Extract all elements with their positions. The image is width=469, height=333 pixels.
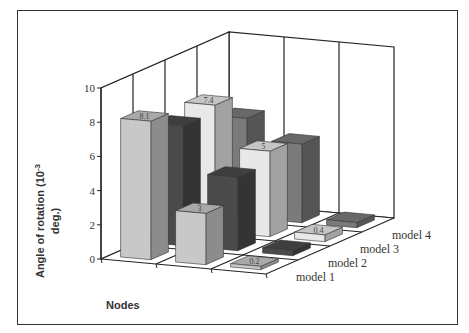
legend-label-2: model 2 — [328, 256, 367, 270]
bar-side-face — [206, 206, 224, 265]
data-label: 0.2 — [250, 257, 260, 266]
bar-side-face — [302, 136, 320, 222]
y-tick-label: 6 — [90, 150, 96, 162]
data-label: 5 — [262, 142, 266, 151]
y-axis-label: Angle of rotation (10-3 deg.) — [24, 111, 68, 331]
data-label: 8.1 — [140, 112, 150, 121]
y-axis-label-line2: deg.) — [48, 208, 60, 234]
data-label: 7.4 — [204, 96, 214, 105]
data-label: 3 — [198, 204, 202, 213]
chart-frame: 02468107.450.48.130.2model 1model 2model… — [17, 10, 458, 325]
x-axis-label: Nodes — [106, 299, 140, 311]
legend-label-3: model 3 — [360, 242, 399, 256]
bar-side-face — [151, 114, 169, 260]
legend-label-1: model 1 — [296, 270, 335, 284]
chart-svg: 02468107.450.48.130.2model 1model 2model… — [18, 11, 459, 326]
bar-front-face — [121, 119, 151, 260]
bar — [121, 111, 169, 260]
y-tick-label: 0 — [90, 253, 96, 265]
y-axis-label-sup: -3 — [33, 164, 42, 171]
bar-side-face — [238, 170, 256, 251]
y-tick-label: 4 — [90, 185, 96, 197]
y-tick-label: 2 — [90, 219, 96, 231]
legend-label-4: model 4 — [392, 228, 431, 242]
bar-side-face — [270, 144, 288, 237]
y-axis-label-line1: Angle of rotation (10 — [34, 171, 46, 278]
y-tick-label: 8 — [90, 116, 96, 128]
bar-front-face — [176, 211, 206, 265]
y-tick-label: 10 — [84, 82, 96, 94]
x-tick — [266, 274, 267, 278]
data-label: 0.4 — [314, 226, 324, 235]
